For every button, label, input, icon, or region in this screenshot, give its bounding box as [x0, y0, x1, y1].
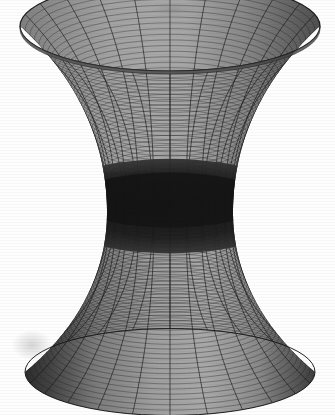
surface-plot-figure	[0, 0, 335, 415]
surface-plot-canvas	[0, 0, 335, 415]
